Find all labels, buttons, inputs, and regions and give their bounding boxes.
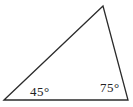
angle-label-bottom-left: 45° xyxy=(30,85,50,98)
angle-label-bottom-right: 75° xyxy=(100,81,120,94)
triangle-diagram: 45° 75° xyxy=(0,0,133,107)
